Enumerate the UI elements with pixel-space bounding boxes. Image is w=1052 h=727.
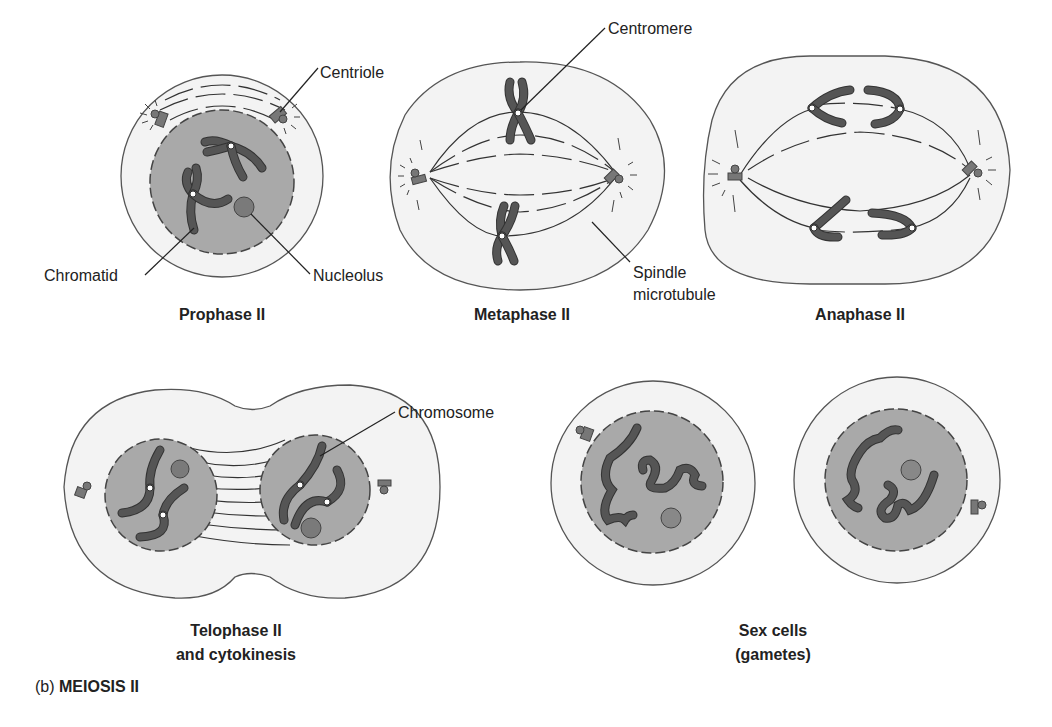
chromosome-label: Chromosome [398, 404, 494, 421]
anaphase-ii-cell [704, 56, 1010, 284]
spindle-label-line2: microtubule [633, 286, 716, 303]
panel-heading: MEIOSIS II [59, 678, 139, 695]
telophase-ii-cell [64, 385, 440, 598]
centriole-leader [280, 68, 318, 112]
nucleolus-icon [171, 460, 189, 478]
stage-label-sex-cells-line2: (gametes) [735, 646, 811, 663]
stage-label-telophase-ii-line1: Telophase II [190, 622, 281, 639]
nucleus [150, 110, 294, 254]
stage-label-anaphase-ii: Anaphase II [815, 306, 905, 323]
stage-label-sex-cells-line1: Sex cells [739, 622, 808, 639]
meiosis-ii-diagram: Centriole Chromatid Nucleolus Prophase I… [0, 0, 1052, 727]
nucleolus-icon [301, 518, 321, 538]
stage-label-telophase-ii-line2: and cytokinesis [176, 646, 296, 663]
gamete-cell-1 [551, 381, 755, 585]
nucleolus-icon [901, 460, 921, 480]
prophase-ii-cell [121, 68, 323, 277]
chromatid-label: Chromatid [44, 267, 118, 284]
centromere-label: Centromere [608, 20, 693, 37]
panel-label: (b) [35, 678, 55, 695]
centriole-label: Centriole [320, 64, 384, 81]
gamete-cell-2 [794, 377, 1000, 583]
stage-label-prophase-ii: Prophase II [179, 306, 265, 323]
nucleolus-label: Nucleolus [313, 267, 383, 284]
stage-label-metaphase-ii: Metaphase II [474, 306, 570, 323]
nucleolus-icon [661, 508, 681, 528]
metaphase-ii-cell [390, 28, 664, 290]
panel-title: (b) MEIOSIS II [35, 678, 139, 695]
spindle-label-line1: Spindle [633, 264, 686, 281]
